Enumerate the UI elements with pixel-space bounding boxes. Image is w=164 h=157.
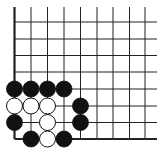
- white-stone: [23, 98, 39, 114]
- go-board: [0, 0, 164, 157]
- black-stone: [40, 81, 56, 97]
- black-stone: [23, 81, 39, 97]
- black-stone: [23, 131, 39, 147]
- white-stone: [7, 98, 23, 114]
- black-stone: [56, 131, 72, 147]
- white-stone: [40, 98, 56, 114]
- black-stone: [73, 98, 89, 114]
- black-stone: [56, 81, 72, 97]
- white-stone: [40, 131, 56, 147]
- black-stone: [7, 81, 23, 97]
- stones-layer: [7, 81, 89, 147]
- black-stone: [7, 115, 23, 131]
- white-stone: [40, 115, 56, 131]
- black-stone: [73, 115, 89, 131]
